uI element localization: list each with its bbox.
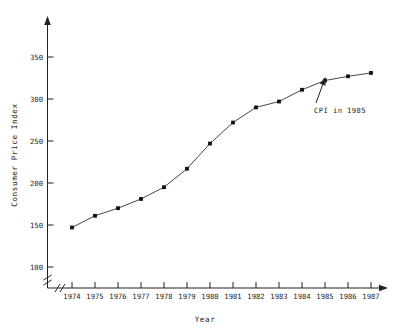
data-point-1980 bbox=[208, 142, 212, 146]
data-point-1987 bbox=[369, 71, 373, 75]
x-tick-label-1977: 1977 bbox=[132, 292, 149, 301]
data-point-1978 bbox=[162, 185, 166, 189]
cpi-line-chart: 350 300 250 200 150 100 bbox=[0, 0, 400, 333]
x-tick-label-1979: 1979 bbox=[178, 292, 195, 301]
data-point-1982 bbox=[254, 106, 258, 110]
chart-canvas: 350 300 250 200 150 100 bbox=[0, 0, 400, 333]
y-tick-label-200: 200 bbox=[30, 179, 43, 188]
x-tick-label-1987: 1987 bbox=[362, 292, 379, 301]
y-tick-label-250: 250 bbox=[30, 137, 43, 146]
y-axis-title: Consumer Price Index bbox=[10, 103, 19, 206]
cpi-series-line bbox=[72, 73, 371, 228]
x-tick-label-1974: 1974 bbox=[63, 292, 80, 301]
x-tick-label-1975: 1975 bbox=[86, 292, 103, 301]
x-axis-title: Year bbox=[195, 315, 216, 324]
x-tick-label-1978: 1978 bbox=[155, 292, 172, 301]
x-tick-label-1982: 1982 bbox=[247, 292, 264, 301]
y-tick-label-350: 350 bbox=[30, 53, 43, 62]
data-point-1983 bbox=[277, 100, 281, 104]
x-tick-label-1976: 1976 bbox=[109, 292, 126, 301]
data-point-1975 bbox=[93, 214, 97, 218]
x-axis-tick-labels: 1974 1975 1976 1977 1978 1979 1980 1981 … bbox=[63, 292, 379, 301]
data-point-1977 bbox=[139, 197, 143, 201]
data-point-1981 bbox=[231, 121, 235, 125]
y-axis-ticks: 350 300 250 200 150 100 bbox=[30, 53, 53, 272]
x-tick-label-1981: 1981 bbox=[224, 292, 241, 301]
annotation-label: CPI in 1985 bbox=[314, 106, 366, 115]
y-tick-label-300: 300 bbox=[30, 95, 43, 104]
x-tick-label-1986: 1986 bbox=[339, 292, 356, 301]
x-tick-label-1984: 1984 bbox=[293, 292, 310, 301]
data-point-1976 bbox=[116, 206, 120, 210]
y-tick-label-150: 150 bbox=[30, 221, 43, 230]
cpi-data-markers bbox=[70, 71, 373, 229]
x-tick-label-1980: 1980 bbox=[201, 292, 218, 301]
data-point-1979 bbox=[185, 167, 189, 171]
data-point-1986 bbox=[346, 74, 350, 78]
x-axis-arrow-icon bbox=[379, 285, 388, 291]
y-tick-label-100: 100 bbox=[30, 263, 43, 272]
annotation-arrow-icon bbox=[316, 77, 326, 103]
x-axis-ticks bbox=[72, 282, 371, 288]
data-point-1984 bbox=[300, 88, 304, 92]
x-tick-label-1983: 1983 bbox=[270, 292, 287, 301]
data-point-1974 bbox=[70, 226, 74, 230]
y-axis-arrow-icon bbox=[44, 16, 51, 25]
x-tick-label-1985: 1985 bbox=[316, 292, 333, 301]
